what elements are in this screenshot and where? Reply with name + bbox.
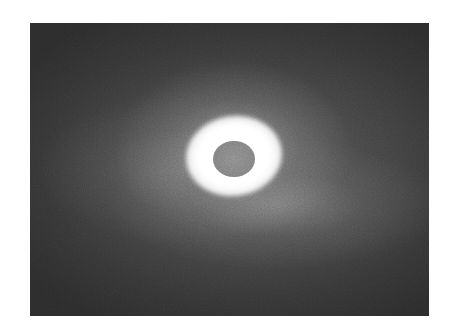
film-grain [30,23,429,316]
eclipse-photo [30,23,429,316]
